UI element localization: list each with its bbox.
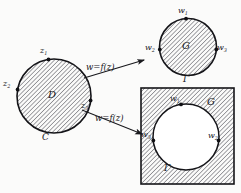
label-domain-D: D [48,89,56,100]
label-w1-exterior: w1 [170,94,180,103]
label-mapping-lower: w=f(z) [95,113,124,123]
label-domain-G-disk: G [182,40,190,51]
label-w2-exterior: w2 [208,131,218,140]
label-z1: z1 [40,46,47,55]
label-w3-exterior: w3 [141,130,151,139]
target-point-w2-marker [158,48,162,52]
label-z3: z3 [81,101,88,110]
source-point-z3-marker [89,99,93,103]
label-w3-disk: w3 [217,43,227,52]
source-point-z2-marker [16,88,20,92]
figure-canvas [0,0,241,193]
target-exterior-group [141,88,234,184]
label-z2: z2 [3,79,10,88]
conformal-mapping-figure: z1 z2 z3 D C w=f(z) w=f(z) w1 w2 w3 G Γ … [0,0,241,193]
label-mapping-upper: w=f(z) [86,62,115,72]
label-w2-disk: w2 [145,43,155,52]
label-boundary-C: C [42,132,49,142]
source-point-z1-marker [47,58,51,62]
label-w1-disk: w1 [178,6,188,15]
target-point-w1-marker [184,17,188,21]
label-boundary-gamma-disk: Γ [183,74,189,84]
label-boundary-gamma-exterior: Γ [164,163,170,173]
label-domain-G-exterior: G [207,96,215,107]
exterior-point-w3-marker [151,139,155,143]
